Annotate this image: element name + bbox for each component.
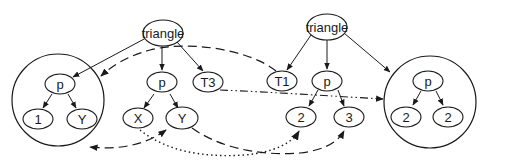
- edge-mr-p-to-3: [338, 90, 344, 106]
- edge-tri-right-to-right-circle: [344, 33, 390, 72]
- node-t3: T3: [193, 72, 223, 92]
- node-t1: T1: [267, 71, 297, 91]
- svg-text:p: p: [424, 74, 431, 89]
- edge-tri-right-to-t1: [287, 35, 311, 70]
- node-triangle-right: triangle: [306, 14, 349, 40]
- node-middle-right-p: p: [312, 71, 342, 91]
- node-left-circle-1: 1: [23, 109, 53, 129]
- edge-ml-p-to-y: [170, 94, 178, 108]
- node-middle-right-2: 2: [286, 107, 316, 127]
- diagram-canvas: triangle p 1 Y p X Y T3 triangle T1 p: [0, 0, 505, 167]
- node-right-circle-p: p: [413, 71, 443, 91]
- svg-text:T1: T1: [274, 74, 289, 89]
- edge-ml-p-to-x: [144, 94, 154, 108]
- svg-text:Y: Y: [178, 111, 187, 126]
- edge-t3-to-right-circle: [220, 90, 383, 99]
- svg-text:T3: T3: [200, 75, 215, 90]
- svg-text:triangle: triangle: [142, 26, 185, 41]
- svg-text:2: 2: [402, 110, 409, 125]
- node-middle-right-3: 3: [334, 107, 364, 127]
- svg-text:p: p: [323, 74, 330, 89]
- edge-t1-to-left-circle: [101, 46, 276, 76]
- node-left-circle-p: p: [45, 74, 75, 94]
- edge-lc-p-to-y: [68, 94, 76, 108]
- svg-text:X: X: [134, 111, 143, 126]
- node-middle-left-x: X: [123, 108, 153, 128]
- node-triangle-left: triangle: [142, 20, 185, 46]
- svg-text:2: 2: [297, 110, 304, 125]
- edge-rc-p-to-2a: [413, 91, 421, 105]
- node-right-circle-2b: 2: [433, 107, 463, 127]
- svg-text:Y: Y: [78, 112, 87, 127]
- node-middle-left-y: Y: [166, 107, 198, 129]
- edge-tri-left-to-left-circle: [73, 38, 146, 77]
- node-right-circle-2a: 2: [391, 107, 421, 127]
- edge-mr-p-to-2: [309, 90, 318, 106]
- edge-y-to-3: [192, 128, 344, 154]
- svg-text:p: p: [158, 75, 165, 90]
- svg-text:triangle: triangle: [306, 20, 349, 35]
- edge-rc-p-to-2b: [436, 91, 443, 105]
- node-left-circle-y: Y: [67, 109, 97, 129]
- svg-text:1: 1: [34, 112, 41, 127]
- svg-text:3: 3: [345, 110, 352, 125]
- edge-lc-p-to-1: [43, 94, 52, 108]
- right-group-circle: [384, 56, 476, 148]
- edge-y-to-left-circle: [90, 130, 166, 148]
- svg-text:p: p: [56, 77, 63, 92]
- node-middle-left-p: p: [147, 72, 177, 92]
- svg-text:2: 2: [444, 110, 451, 125]
